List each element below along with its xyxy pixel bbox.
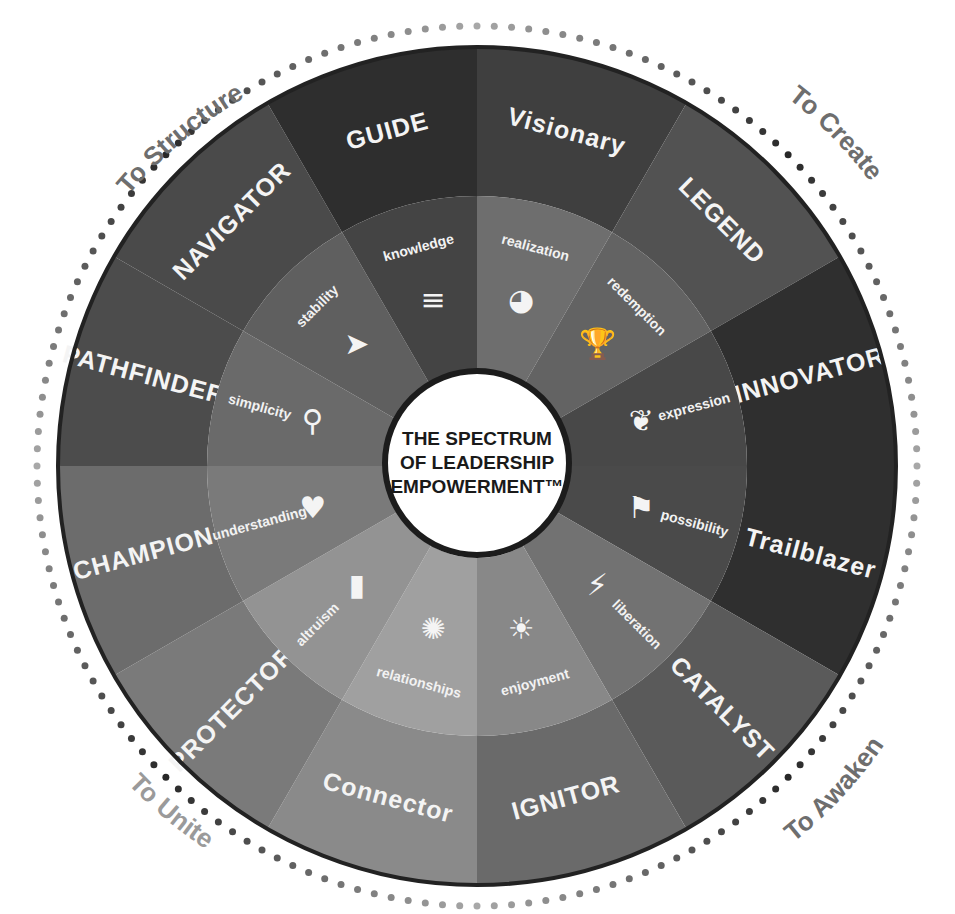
ring-dot [439,24,446,31]
ring-dot [746,808,753,815]
ring-dot [759,128,766,135]
ring-dot [354,886,361,893]
ring-dot [35,428,42,435]
ring-dot [542,28,549,35]
ring-dot [732,107,739,114]
ring-dot [772,139,779,146]
ring-dot [244,87,251,94]
ring-dot [626,875,633,882]
compass-icon: ➤ [344,326,369,361]
ring-dot [808,748,815,755]
ring-dot [74,278,81,285]
ring-dot [50,582,57,589]
ring-dot [542,897,549,904]
ring-dot [576,35,583,42]
ring-dot [474,903,481,910]
ring-dot [819,190,826,197]
ring-dot [508,901,515,908]
lightning-icon: ⚡ [587,567,608,602]
title-line-2: OF LEADERSHIP [400,452,554,473]
ring-dot [39,394,46,401]
ring-dot [886,615,893,622]
ring-dot [910,514,917,521]
ring-dot [609,881,616,888]
ring-dot [108,707,115,714]
quadrant-label-awaken: To Awaken [778,731,889,847]
ring-dot [873,647,880,654]
ring-dot [913,480,920,487]
ring-dot [98,692,105,699]
sun-icon: ☀ [508,611,535,646]
ring-dot [215,818,222,825]
ring-dot [108,218,115,225]
ring-dot [118,721,125,728]
ring-dot [849,233,856,240]
ring-dot [439,901,446,908]
ring-dot [354,39,361,46]
ring-dot [797,164,804,171]
ring-dot [905,377,912,384]
ring-dot [456,23,463,30]
path-icon: ⚲ [302,403,324,438]
ring-dot [718,828,725,835]
ring-dot [829,204,836,211]
ring-dot [609,44,616,51]
ring-dot [42,377,49,384]
ring-dot [321,875,328,882]
ring-dot [642,56,649,63]
ring-dot [857,248,864,255]
ring-dot [910,411,917,418]
ring-dot [912,497,919,504]
ring-dot [829,721,836,728]
ring-dot [55,598,62,605]
ring-dot [46,360,53,367]
title-line-1: THE SPECTRUM [402,428,552,449]
ring-dot [474,23,481,30]
ring-dot [90,677,97,684]
ring-dot [388,894,395,901]
ring-dot [61,615,68,622]
ring-dot [866,662,873,669]
ring-dot [857,677,864,684]
heart-icon: ♥ [299,490,326,525]
ring-dot [688,846,695,853]
ring-dot [150,761,157,768]
ring-dot [772,786,779,793]
ring-dot [50,343,57,350]
ring-dot [576,890,583,897]
ring-dot [759,797,766,804]
ring-dot [274,70,281,77]
sprout-icon: ❦ [629,403,654,438]
ring-dot [703,838,710,845]
ring-dot [55,327,62,334]
ring-dot [46,565,53,572]
ring-dot [34,480,41,487]
ring-dot [746,117,753,124]
ring-dot [34,445,41,452]
ring-dot [732,818,739,825]
ring-dot [866,263,873,270]
ring-dot [259,846,266,853]
network-icon: ✺ [420,611,445,646]
ring-dot [42,548,49,555]
ring-dot [34,463,41,470]
ring-dot [508,24,515,31]
ring-dot [305,869,312,876]
ring-dot [229,828,236,835]
ring-dot [74,647,81,654]
crystal-ball-icon: ◕ [508,282,534,317]
ring-dot [525,26,532,33]
ring-dot [897,343,904,350]
ring-dot [39,531,46,538]
ring-dot [880,294,887,301]
ring-dot [67,294,74,301]
text-lines-icon: ≡ [420,282,445,317]
ring-dot [35,497,42,504]
ring-dot [901,360,908,367]
ring-dot [338,44,345,51]
ring-dot [912,428,919,435]
ring-dot [422,26,429,33]
ring-dot [139,748,146,755]
ring-dot [422,899,429,906]
ring-dot [37,514,44,521]
